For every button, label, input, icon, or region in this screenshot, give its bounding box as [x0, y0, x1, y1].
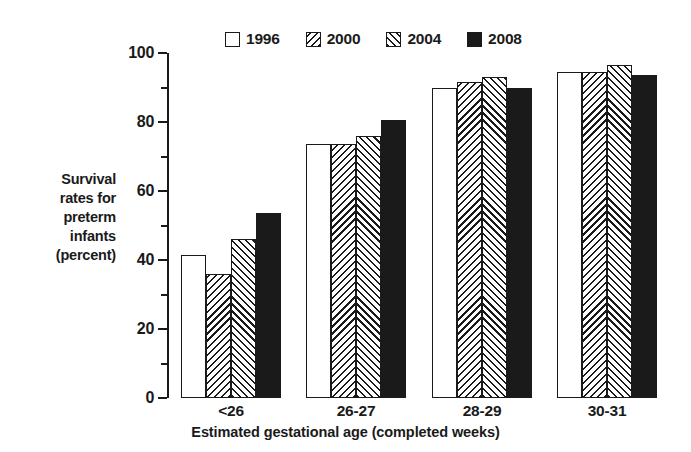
bar-2008-30-31 — [632, 75, 657, 398]
x-tick-label: 30-31 — [557, 402, 657, 420]
bar-group-26-27: 26-27 — [306, 53, 406, 398]
bar-2004-26-27 — [356, 136, 381, 398]
bar-1996-30-31 — [557, 72, 582, 398]
y-axis-label-line: preterm — [6, 208, 116, 227]
legend-item-1996: 1996 — [225, 31, 280, 47]
y-tick-minor — [161, 294, 167, 296]
legend-swatch-empty-icon — [225, 32, 240, 47]
x-axis-label: Estimated gestational age (completed wee… — [0, 424, 691, 440]
y-tick-label: 40 — [137, 252, 154, 268]
bar-1996-<26 — [181, 255, 206, 398]
legend-item-2008: 2008 — [467, 31, 522, 47]
legend-label: 2000 — [327, 31, 361, 47]
y-tick-major — [158, 52, 167, 54]
bar-2000-28-29 — [457, 82, 482, 398]
bar-group-28-29: 28-29 — [432, 53, 532, 398]
y-tick-label: 100 — [128, 45, 154, 61]
y-tick-minor — [161, 156, 167, 158]
y-axis-line — [167, 53, 169, 398]
y-tick-label: 60 — [137, 183, 154, 199]
legend-item-2000: 2000 — [306, 31, 361, 47]
bar-chart-figure: 1996200020042008 Survivalrates forpreter… — [0, 0, 691, 452]
x-tick-label: 28-29 — [432, 402, 532, 420]
y-axis-label-line: infants — [6, 227, 116, 246]
y-tick-major — [158, 121, 167, 123]
legend-swatch-solid-icon — [467, 32, 482, 47]
x-tick-label: <26 — [181, 402, 281, 420]
bar-2000-30-31 — [582, 72, 607, 398]
y-tick-label: 80 — [137, 114, 154, 130]
bar-2004-28-29 — [482, 77, 507, 398]
x-tick-label: 26-27 — [306, 402, 406, 420]
legend-swatch-backslash-icon — [306, 32, 321, 47]
plot-area: 020406080100 <2626-2728-2930-31 — [168, 53, 678, 398]
bar-group-30-31: 30-31 — [557, 53, 657, 398]
chart-legend: 1996200020042008 — [225, 28, 522, 50]
bar-1996-26-27 — [306, 144, 331, 398]
legend-item-2004: 2004 — [386, 31, 441, 47]
y-tick-minor — [161, 87, 167, 89]
y-tick-major — [158, 397, 167, 399]
bar-2008-<26 — [256, 213, 281, 398]
y-tick-minor — [161, 225, 167, 227]
y-tick-minor — [161, 363, 167, 365]
y-tick-label: 20 — [137, 321, 154, 337]
y-tick-major — [158, 259, 167, 261]
y-tick-major — [158, 190, 167, 192]
y-tick-label: 0 — [145, 390, 154, 406]
bar-1996-28-29 — [432, 88, 457, 399]
legend-label: 2008 — [488, 31, 522, 47]
bar-2008-26-27 — [381, 120, 406, 398]
bar-group-<26: <26 — [181, 53, 281, 398]
bar-2000-<26 — [206, 274, 231, 398]
y-axis-label-line: Survival — [6, 170, 116, 189]
y-axis-label-line: (percent) — [6, 246, 116, 265]
legend-swatch-slash-icon — [386, 32, 401, 47]
y-axis-label-line: rates for — [6, 189, 116, 208]
bar-2004-30-31 — [607, 65, 632, 398]
y-axis-label: Survivalrates forpreterminfants(percent) — [6, 170, 116, 265]
bar-2008-28-29 — [507, 88, 532, 399]
bar-2004-<26 — [231, 239, 256, 398]
legend-label: 2004 — [407, 31, 441, 47]
legend-label: 1996 — [246, 31, 280, 47]
bar-2000-26-27 — [331, 144, 356, 398]
y-tick-major — [158, 328, 167, 330]
